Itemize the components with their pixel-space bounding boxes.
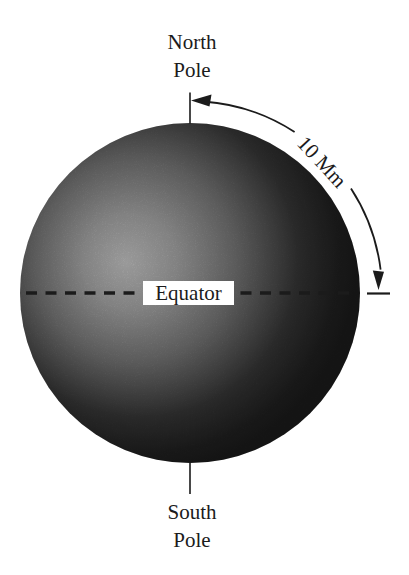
north-pole-label-line1: North	[168, 30, 217, 54]
south-pole-label-line2: Pole	[173, 528, 210, 552]
diagram-canvas: Equator 10 Mm North Pole South Pole	[0, 0, 409, 575]
south-pole-label-line1: South	[167, 500, 217, 524]
equator-label: Equator	[155, 281, 221, 305]
sphere-distance-diagram: Equator 10 Mm North Pole South Pole	[0, 0, 409, 575]
north-pole-label-line2: Pole	[173, 58, 210, 82]
arc-arrowhead-equator-icon	[373, 271, 384, 291]
arc-arrowhead-north-icon	[191, 95, 212, 107]
